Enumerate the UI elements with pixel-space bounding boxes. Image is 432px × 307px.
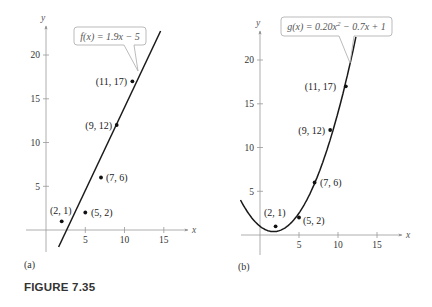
point-label: (2, 1) — [264, 207, 286, 219]
point-label: (7, 6) — [320, 177, 342, 189]
point-label: (11, 17) — [305, 81, 336, 93]
data-point — [297, 216, 301, 220]
panel-b-label: (b) — [238, 261, 250, 272]
equation-callout: g(x) = 0.20x2 − 0.7x + 1 — [281, 17, 392, 63]
panel-b-overlay: (2, 1) (5, 2) (7, 6) (9, 12) (11, 17) g(… — [0, 0, 432, 307]
data-point — [274, 224, 278, 228]
data-point — [313, 181, 317, 185]
data-point — [344, 84, 348, 88]
point-label: (5, 2) — [303, 215, 325, 227]
panel-a-label: (a) — [24, 259, 35, 270]
data-point — [328, 128, 332, 132]
callout-equation: g(x) = 0.20x2 − 0.7x + 1 — [287, 20, 386, 33]
point-label: (9, 12) — [298, 125, 325, 137]
figure-title: FIGURE 7.35 — [24, 281, 95, 293]
